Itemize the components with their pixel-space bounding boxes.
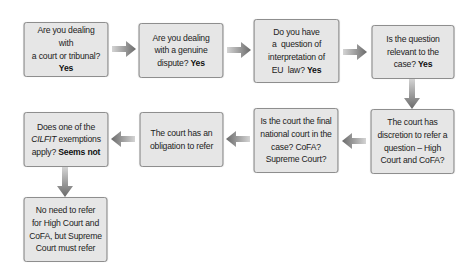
node-text-line: relevant to the	[387, 46, 439, 57]
node-text-line: Do you have	[273, 26, 319, 37]
node-text-line: for High Court and	[32, 217, 99, 228]
node-text-line: national court in the	[260, 128, 331, 139]
arrow-down-icon	[57, 167, 73, 197]
node-text-line: case? CoFA?	[271, 141, 321, 152]
node-court-or-tribunal: Are you dealing with a court or tribunal…	[24, 22, 109, 77]
node-answer: Yes	[191, 57, 205, 68]
node-text-line: Does one of the	[37, 121, 95, 132]
node-text-line: Are you dealing	[152, 32, 209, 43]
arrow-left-icon	[342, 133, 366, 149]
node-text-line: interpretation of	[268, 51, 325, 62]
node-no-need-to-refer: No need to refer for High Court and CoFA…	[24, 197, 108, 262]
node-text-line: question – High	[384, 142, 441, 153]
node-text-line: apply?	[32, 146, 56, 157]
node-text-line: a court or tribunal?	[32, 50, 100, 61]
node-text-line: Court must refer	[36, 242, 95, 253]
node-answer: Yes	[307, 64, 321, 75]
node-text-line: dispute?	[157, 57, 188, 68]
node-genuine-dispute: Are you dealing with a genuine dispute? …	[139, 23, 224, 78]
node-final-national-court: Is the court the final national court in…	[254, 108, 339, 173]
node-text-line: with a genuine	[154, 44, 207, 55]
arrow-down-icon	[404, 79, 420, 109]
node-text-line: Is the question	[386, 33, 439, 44]
node-italic-term: CILFIT	[31, 133, 56, 144]
node-text-line: EU law?	[272, 64, 305, 75]
arrow-right-icon	[112, 41, 136, 57]
node-answer: Yes	[59, 62, 73, 73]
node-question-relevant: Is the question relevant to the case? Ye…	[372, 25, 455, 79]
node-text-line: No need to refer	[36, 204, 95, 215]
node-text-line: Court and CoFA?	[381, 154, 445, 165]
arrow-right-icon	[227, 42, 251, 58]
node-text-line: Is the court the final	[260, 115, 331, 126]
node-text-line: exemptions	[59, 133, 101, 144]
arrow-right-icon	[343, 44, 367, 60]
node-text-line: The court has an	[151, 127, 213, 138]
node-text-line: a question of	[272, 38, 321, 49]
node-discretion-to-refer: The court has discretion to refer a ques…	[371, 109, 455, 174]
arrow-left-icon	[226, 131, 250, 147]
node-interpretation-eu-law: Do you have a question of interpretation…	[254, 19, 340, 83]
node-text-line: case?	[394, 58, 416, 69]
node-text-line: discretion to refer a	[378, 129, 448, 140]
node-answer: Yes	[418, 58, 432, 69]
node-answer: Seems not	[58, 146, 100, 157]
arrow-left-icon	[111, 131, 135, 147]
node-text-line: Are you dealing with	[37, 24, 94, 48]
node-text-line: obligation to refer	[150, 140, 213, 151]
node-obligation-to-refer: The court has an obligation to refer	[140, 112, 224, 167]
node-cilfit-exemptions: Does one of the CILFIT exemptions apply?…	[24, 112, 109, 167]
node-text-line: The court has	[387, 116, 437, 127]
node-text-line: CoFA, but Supreme	[29, 230, 102, 241]
node-text-line: Supreme Court?	[266, 153, 327, 164]
